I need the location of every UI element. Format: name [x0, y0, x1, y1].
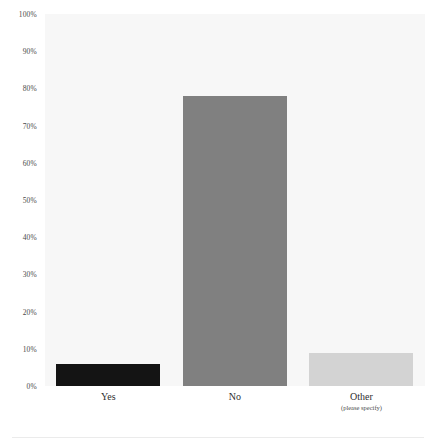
y-axis-tick-70: 70% [23, 121, 37, 130]
y-axis-tick-30: 30% [23, 270, 37, 279]
footer-divider [12, 437, 424, 438]
y-axis-tick-90: 90% [23, 47, 37, 56]
x-axis: Yes No Other (please specify) [45, 390, 425, 430]
bar-slot-no [172, 14, 299, 386]
bars-layer [45, 14, 425, 386]
y-axis-tick-0: 0% [27, 382, 37, 391]
x-axis-label-other: Other (please specify) [298, 390, 425, 413]
y-axis-tick-100: 100% [19, 10, 37, 19]
bar-yes[interactable] [56, 364, 160, 386]
bar-slot-yes [45, 14, 172, 386]
y-axis: 100% 90% 80% 70% 60% 50% 40% 30% 20% 10%… [0, 14, 45, 386]
bar-chart: 100% 90% 80% 70% 60% 50% 40% 30% 20% 10%… [0, 0, 436, 443]
x-axis-label-other-text: Other [298, 390, 425, 403]
bar-slot-other [298, 14, 425, 386]
y-axis-tick-20: 20% [23, 307, 37, 316]
x-axis-label-no-text: No [172, 390, 299, 403]
y-axis-tick-40: 40% [23, 233, 37, 242]
x-axis-sublabel-other-text: (please specify) [298, 403, 425, 413]
x-axis-label-yes: Yes [45, 390, 172, 403]
x-axis-label-no: No [172, 390, 299, 403]
bar-no[interactable] [183, 96, 287, 386]
x-axis-label-yes-text: Yes [45, 390, 172, 403]
y-axis-tick-10: 10% [23, 344, 37, 353]
y-axis-tick-60: 60% [23, 158, 37, 167]
y-axis-tick-50: 50% [23, 196, 37, 205]
bar-other[interactable] [309, 353, 413, 386]
y-axis-tick-80: 80% [23, 84, 37, 93]
